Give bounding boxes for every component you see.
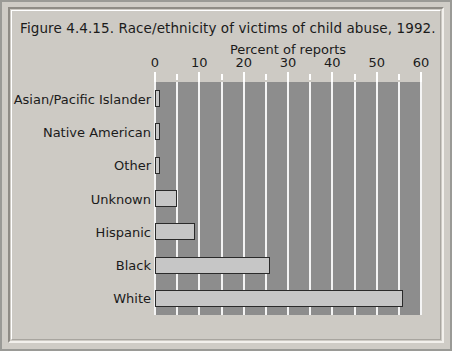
y-category-label: Black bbox=[116, 258, 151, 273]
bar bbox=[155, 123, 160, 140]
bar-row bbox=[155, 82, 160, 115]
bar-row bbox=[155, 182, 177, 215]
x-tick-label: 10 bbox=[191, 55, 208, 70]
gridline bbox=[354, 82, 356, 315]
bar-row bbox=[155, 149, 160, 182]
y-category-label: Other bbox=[114, 158, 151, 173]
gridline bbox=[420, 82, 422, 315]
x-tick-label: 50 bbox=[368, 55, 385, 70]
x-tick-label: 30 bbox=[280, 55, 297, 70]
tick-mark bbox=[221, 74, 223, 80]
bar-row bbox=[155, 248, 270, 281]
tick-mark bbox=[176, 74, 178, 80]
tick-mark bbox=[354, 74, 356, 80]
x-major-tick bbox=[198, 72, 200, 82]
y-category-label: Asian/Pacific Islander bbox=[14, 91, 151, 106]
figure-title: Figure 4.4.15. Race/ethnicity of victims… bbox=[20, 20, 436, 36]
x-major-tick bbox=[420, 72, 422, 82]
x-tick-label: 60 bbox=[413, 55, 430, 70]
bar-row bbox=[155, 282, 403, 315]
bar-row bbox=[155, 215, 195, 248]
tick-mark bbox=[398, 74, 400, 80]
bar bbox=[155, 257, 270, 274]
x-major-tick bbox=[331, 72, 333, 82]
gridline bbox=[331, 82, 333, 315]
y-category-label: Native American bbox=[43, 124, 151, 139]
y-axis-category-labels: Asian/Pacific IslanderNative AmericanOth… bbox=[10, 82, 151, 315]
gridline bbox=[287, 82, 289, 315]
y-category-label: White bbox=[113, 291, 151, 306]
figure-container: Figure 4.4.15. Race/ethnicity of victims… bbox=[0, 0, 452, 351]
bar bbox=[155, 90, 160, 107]
bar bbox=[155, 290, 403, 307]
x-tick-label: 40 bbox=[324, 55, 341, 70]
bar bbox=[155, 223, 195, 240]
gridline bbox=[309, 82, 311, 315]
y-category-label: Unknown bbox=[91, 191, 151, 206]
plot-area: 0102030405060 bbox=[155, 82, 421, 315]
bar-row bbox=[155, 115, 160, 148]
tick-mark bbox=[265, 74, 267, 80]
bar bbox=[155, 190, 177, 207]
gridline bbox=[376, 82, 378, 315]
x-major-tick bbox=[287, 72, 289, 82]
tick-mark bbox=[309, 74, 311, 80]
y-category-label: Hispanic bbox=[96, 224, 151, 239]
x-major-tick bbox=[376, 72, 378, 82]
x-major-tick bbox=[243, 72, 245, 82]
bar bbox=[155, 157, 160, 174]
x-major-tick bbox=[154, 72, 156, 82]
x-tick-label: 0 bbox=[151, 55, 159, 70]
gridline bbox=[398, 82, 400, 315]
x-tick-label: 20 bbox=[235, 55, 252, 70]
